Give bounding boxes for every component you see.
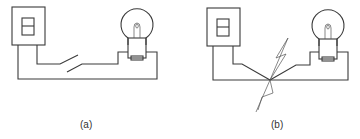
wall-switch-icon bbox=[22, 18, 34, 35]
supply-wire bbox=[37, 45, 78, 64]
light-bulb-icon bbox=[312, 10, 344, 61]
panel-a bbox=[12, 7, 157, 79]
wall-switch-icon bbox=[217, 19, 229, 36]
panel-b bbox=[207, 8, 348, 112]
circuit-diagram bbox=[0, 0, 360, 139]
panel-a-label: (a) bbox=[80, 119, 92, 130]
return-wire bbox=[18, 45, 157, 79]
panel-b-label: (b) bbox=[271, 119, 283, 130]
supply-wire bbox=[233, 46, 270, 80]
open-switch-wire bbox=[67, 52, 128, 72]
